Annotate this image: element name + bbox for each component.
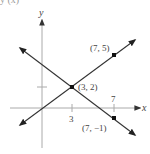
point-7-neg1 [112,116,116,120]
x-tick-label-3: 3 [69,114,74,124]
x-tick-label-7: 7 [111,94,116,104]
coordinate-diagram: y x 3 7 (3, 2) (7, 5) (7, −1) [0,0,150,154]
y-axis-label: y [38,7,44,18]
point-label-7-neg1: (7, −1) [82,123,107,133]
point-label-7-5: (7, 5) [90,43,110,53]
x-axis-label: x [141,102,147,113]
point-label-3-2: (3, 2) [78,82,98,92]
point-3-2 [70,85,74,89]
point-7-5 [112,53,116,57]
